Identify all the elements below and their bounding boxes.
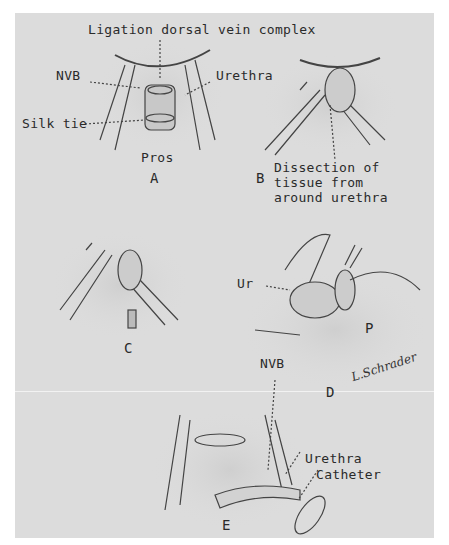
- panel-letter-d: D: [326, 384, 335, 400]
- label-dissection-line3: around urethra: [274, 190, 388, 205]
- label-catheter: Catheter: [316, 467, 381, 482]
- label-ligation-dorsal-vein-complex: Ligation dorsal vein complex: [88, 22, 316, 37]
- panel-letter-a: A: [150, 170, 159, 186]
- label-urethra-e: Urethra: [305, 451, 362, 466]
- label-ur: Ur: [237, 276, 253, 291]
- label-nvb-d: NVB: [260, 356, 284, 371]
- drawing-c: [50, 230, 190, 340]
- label-p: P: [365, 320, 374, 336]
- label-dissection-line2: tissue from: [274, 175, 388, 190]
- drawing-b: [260, 55, 400, 160]
- label-silk-tie: Silk tie: [22, 116, 87, 131]
- label-urethra-a: Urethra: [216, 68, 273, 83]
- panel-letter-c: C: [124, 340, 133, 356]
- drawing-a: [85, 40, 225, 150]
- drawing-e: [150, 380, 331, 539]
- panel-letter-e: E: [222, 517, 231, 533]
- label-nvb-a: NVB: [56, 68, 80, 83]
- label-pros: Pros: [141, 150, 174, 165]
- label-dissection-line1: Dissection of: [274, 160, 388, 175]
- panel-letter-b: B: [256, 170, 265, 186]
- label-dissection: Dissection of tissue from around urethra: [274, 160, 388, 205]
